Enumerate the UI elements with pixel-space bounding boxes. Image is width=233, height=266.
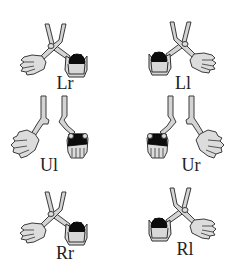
panel-lr: Lr (18, 22, 98, 92)
crossed-hands-ball-right-icon (18, 190, 98, 250)
panel-rl: Rl (143, 186, 223, 256)
uncrossed-hands-ball-left-icon (140, 94, 233, 164)
panel-label: Lr (45, 74, 85, 92)
panel-label: Rl (165, 240, 205, 258)
panel-rr: Rr (18, 190, 98, 260)
crossed-hands-ball-left-icon (143, 20, 223, 80)
panel-label: Rr (45, 244, 85, 262)
panel-ur: Ur (140, 94, 233, 174)
panel-label: Ll (163, 74, 203, 92)
crossed-hands-ball-left-icon (143, 186, 223, 246)
panel-label: Ul (29, 156, 69, 174)
panel-ll: Ll (143, 20, 223, 90)
panel-ul: Ul (5, 94, 100, 174)
panel-label: Ur (171, 156, 211, 174)
uncrossed-hands-ball-right-icon (5, 94, 100, 164)
